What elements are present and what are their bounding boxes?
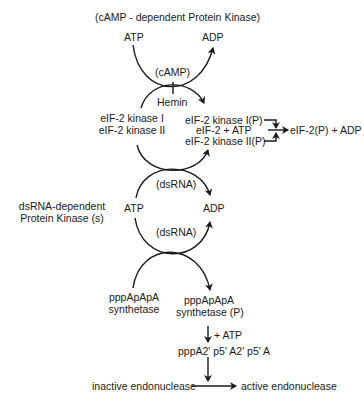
synthetase-label: pppApApA synthetase — [102, 291, 166, 315]
kinase1-bracket — [264, 120, 276, 128]
dsrna-adp-label: ADP — [203, 202, 225, 214]
hemin-label: Hemin — [157, 96, 187, 108]
kinase-substrates-label: eIF-2 kinase I eIF-2 kinase II — [82, 112, 182, 136]
top-atp-label: ATP — [124, 31, 144, 43]
plus-atp-label: + ATP — [214, 329, 242, 341]
kinase-arc-lower — [137, 145, 208, 170]
products-label: eIF-2(P) + ADP — [290, 124, 361, 136]
synthetase-arc — [133, 252, 210, 290]
synthetase-p-label: pppApApA synthetase (P) — [176, 294, 242, 318]
kinase2-bracket — [264, 133, 276, 141]
dsrna-lower-label: (dsRNA) — [156, 226, 196, 238]
active-endonuclease-label: active endonuclease — [241, 380, 337, 392]
oligoadenylate-label: pppA2' p5' A2' p5' A — [178, 345, 270, 357]
dsrna-atp-label: ATP — [124, 202, 144, 214]
kinase1-label: eIF-2 kinase I — [82, 112, 182, 124]
kinase2-label: eIF-2 kinase II — [82, 124, 182, 136]
diagram-title: (cAMP - dependent Protein Kinase) — [95, 11, 260, 23]
inactive-endonuclease-label: inactive endonuclease — [92, 380, 196, 392]
kinase2-p-label: eIF-2 kinase II(P) — [185, 135, 266, 147]
dsrna-kinase-side-label: dsRNA-dependent Protein Kinase (s) — [12, 200, 112, 224]
camp-label: (cAMP) — [155, 66, 190, 78]
dsrna-upper-label: (dsRNA) — [156, 178, 196, 190]
top-adp-label: ADP — [202, 31, 224, 43]
